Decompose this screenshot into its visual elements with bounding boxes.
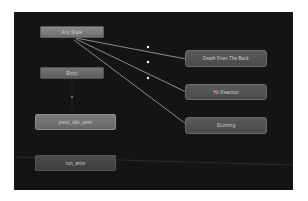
- node-label: Death From The Back: [203, 56, 249, 61]
- node-label: run_anim: [66, 161, 86, 166]
- transition-any-to-stunning[interactable]: [74, 40, 186, 124]
- state-node-hit-reaction[interactable]: Hit Reaction: [185, 84, 267, 100]
- state-node-death-from-the-back[interactable]: Death From The Back: [185, 50, 267, 67]
- animator-graph-canvas[interactable]: Any State Entry pistol_idle_anim run_ani…: [14, 12, 293, 190]
- arrow-icon: [71, 96, 73, 98]
- node-label: pistol_idle_anim: [59, 120, 93, 125]
- state-node-run-anim[interactable]: run_anim: [35, 155, 116, 171]
- arrow-icon: [147, 77, 149, 79]
- state-node-any-state[interactable]: Any State: [40, 26, 104, 38]
- transition-any-to-hit[interactable]: [76, 39, 186, 92]
- node-label: Stunning: [217, 123, 236, 128]
- node-label: Entry: [66, 71, 77, 76]
- node-label: Hit Reaction: [213, 90, 239, 95]
- state-node-entry[interactable]: Entry: [40, 67, 104, 79]
- state-node-stunning[interactable]: Stunning: [185, 117, 267, 134]
- transition-any-to-death[interactable]: [76, 38, 186, 59]
- node-label: Any State: [62, 30, 82, 35]
- arrow-icon: [147, 46, 149, 48]
- state-node-pistol-idle-anim[interactable]: pistol_idle_anim: [35, 114, 116, 130]
- arrow-icon: [147, 61, 149, 63]
